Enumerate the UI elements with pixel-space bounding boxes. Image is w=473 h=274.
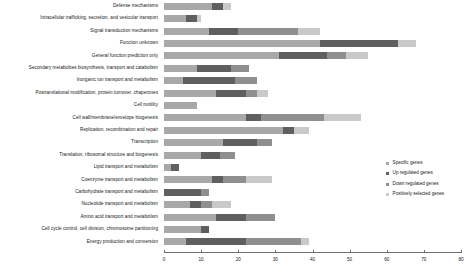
x-axis-tick — [461, 250, 462, 253]
category-label: Signal transduction mechanisms — [90, 29, 158, 34]
category-label: Intracellular trafficking, secretion, an… — [40, 16, 158, 21]
bar-segment-specific — [164, 176, 212, 183]
stacked-bar — [164, 65, 249, 72]
stacked-bar — [164, 139, 272, 146]
category-label: Transcription — [131, 140, 158, 145]
bar-segment-specific — [164, 15, 186, 22]
category-label: Function unknown — [120, 41, 158, 46]
x-axis-tick — [201, 250, 202, 253]
category-label: Energy production and conversion — [87, 240, 158, 245]
legend-label: Positively selected genes — [393, 192, 445, 197]
x-axis-tick-label: 0 — [163, 257, 166, 262]
stacked-bar — [164, 176, 272, 183]
legend-label: Specific genes — [393, 161, 423, 166]
bar-segment-specific — [164, 114, 246, 121]
bar-segment-specific — [164, 139, 223, 146]
bar-segment-down — [220, 152, 235, 159]
x-axis-tick-label: 60 — [384, 257, 389, 262]
legend-item: Specific genes — [386, 158, 472, 169]
x-axis-tick — [164, 250, 165, 253]
bar-segment-up — [164, 189, 201, 196]
stacked-bar — [164, 102, 197, 109]
bar-segment-specific — [164, 65, 197, 72]
x-axis-tick-label: 20 — [236, 257, 241, 262]
stacked-bar — [164, 15, 201, 22]
bar-segment-positive — [298, 28, 320, 35]
bar-segment-specific — [164, 52, 279, 59]
bar-segment-specific — [164, 90, 216, 97]
stacked-bar — [164, 127, 309, 134]
category-label: General function prediction only — [92, 54, 158, 59]
bar-segment-down — [246, 90, 257, 97]
bar-segment-positive — [223, 3, 230, 10]
category-label: Postranslational modification, protein t… — [36, 91, 158, 96]
category-label: Carbohydrate transport and metabolism — [75, 190, 158, 195]
bar-segment-positive — [257, 90, 268, 97]
bar-segment-specific — [164, 3, 212, 10]
bar-segment-specific — [164, 164, 171, 171]
bar-segment-specific — [164, 152, 201, 159]
bar-segment-specific — [164, 226, 201, 233]
bar-segment-up — [212, 176, 223, 183]
plot-area — [164, 0, 462, 248]
bar-segment-specific — [164, 28, 209, 35]
bar-segment-down — [201, 189, 208, 196]
bar-segment-up — [223, 139, 256, 146]
stacked-bar — [164, 90, 268, 97]
bar-segment-positive — [246, 176, 272, 183]
bar-segment-up — [216, 214, 246, 221]
bar-segment-down — [327, 52, 346, 59]
bar-segment-up — [197, 65, 230, 72]
legend-swatch-icon — [386, 193, 389, 196]
bar-segment-positive — [212, 201, 231, 208]
bar-segment-up — [183, 77, 235, 84]
x-axis-tick — [313, 250, 314, 253]
legend-label: Down regulated genes — [393, 182, 439, 187]
bar-segment-down — [261, 114, 324, 121]
x-axis: 01020304050607080 — [164, 252, 462, 274]
legend-swatch-icon — [386, 172, 389, 175]
bar-segment-up — [279, 52, 327, 59]
bar-segment-up — [212, 3, 223, 10]
category-label: Lipid transport and metabolism — [94, 165, 158, 170]
stacked-bar — [164, 164, 179, 171]
category-label: Cell wall/membrane/envelope biogenesis — [73, 116, 158, 121]
bar-segment-positive — [398, 40, 417, 47]
category-label: Cell motility — [134, 103, 158, 108]
bar-segment-specific — [164, 214, 216, 221]
bar-segment-positive — [197, 15, 201, 22]
legend-item: Positively selected genes — [386, 190, 472, 201]
x-axis-tick-label: 70 — [421, 257, 426, 262]
bar-segment-positive — [346, 52, 368, 59]
x-axis-tick-label: 50 — [347, 257, 352, 262]
bar-segment-down — [238, 28, 297, 35]
category-label: Coenzyme transport and metabolism — [81, 178, 158, 183]
category-label: Defense mechanisms — [113, 4, 158, 9]
stacked-bar — [164, 3, 231, 10]
bar-segment-down — [246, 214, 276, 221]
bar-segment-specific — [164, 40, 320, 47]
legend-label: Up regulated genes — [393, 171, 433, 176]
x-axis-tick — [275, 250, 276, 253]
bar-segment-up — [320, 40, 398, 47]
category-label: Cell cycle control, cell division, chrom… — [41, 227, 158, 232]
bar-segment-positive — [324, 114, 361, 121]
chart-legend: Specific genesUp regulated genesDown reg… — [386, 158, 472, 200]
bar-segment-specific — [164, 201, 190, 208]
bar-segment-specific — [164, 238, 186, 245]
category-label-column: Defense mechanismsIntracellular traffick… — [0, 0, 162, 248]
bar-segment-up — [186, 15, 197, 22]
bar-segment-up — [201, 226, 208, 233]
stacked-bar — [164, 28, 320, 35]
bar-segment-down — [231, 65, 250, 72]
category-label: Secondary metabolites biosynthesis, tran… — [29, 66, 158, 71]
x-axis-tick-label: 80 — [458, 257, 463, 262]
bar-segment-down — [201, 201, 212, 208]
stacked-bar — [164, 238, 309, 245]
x-axis-tick — [387, 250, 388, 253]
category-label: Translation, ribosomal structure and bio… — [59, 153, 158, 158]
stacked-bar — [164, 52, 368, 59]
bar-segment-specific — [164, 127, 283, 134]
legend-swatch-icon — [386, 183, 389, 186]
x-axis-tick — [238, 250, 239, 253]
